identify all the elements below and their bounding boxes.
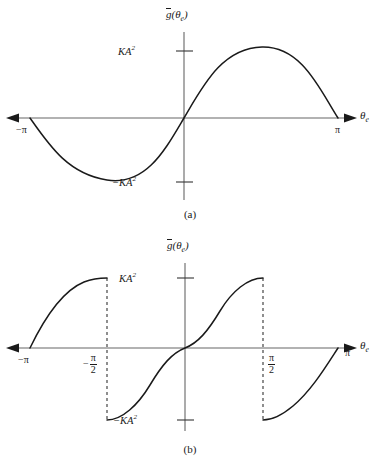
y-axis-label-open-a: (θ	[172, 8, 181, 20]
y-tick-label-negative-b: −KA2	[113, 414, 137, 426]
y-tick-label-positive-exp-b: 2	[132, 271, 136, 279]
g-bar-symbol-b: g	[167, 240, 173, 251]
panel-caption-a: (a)	[0, 208, 380, 220]
x-tick-label-pos-pi-a: π	[335, 125, 340, 135]
pos-half-pi-denominator-b: 2	[268, 365, 275, 376]
y-tick-label-negative-a: −KA2	[112, 176, 136, 188]
neg-half-pi-denominator-b: 2	[90, 365, 97, 376]
x-axis-label-b: θe	[360, 340, 369, 354]
neg-half-pi-fraction-b: π 2	[90, 353, 97, 375]
x-tick-label-neg-half-pi-b: − π 2	[83, 353, 97, 375]
y-axis-label-open-b: (θ	[173, 239, 182, 251]
x-axis-label-a: θe	[360, 110, 369, 124]
theta-subscript-b: e	[365, 345, 368, 354]
figure-root: g(θe) θe KA2 −KA2 −π π (a)	[0, 0, 380, 473]
plot-panel-a: g(θe) θe KA2 −KA2 −π π (a)	[0, 0, 380, 235]
pos-half-pi-fraction-b: π 2	[268, 353, 275, 375]
y-tick-label-negative-text-a: −KA	[112, 177, 133, 188]
curve-branch-left-b	[30, 278, 107, 348]
y-axis-label-close-a: )	[184, 8, 188, 20]
neg-half-pi-numerator-b: π	[90, 353, 97, 365]
y-tick-label-positive-exp-a: 2	[131, 44, 135, 52]
panel-caption-b: (b)	[0, 443, 380, 455]
x-axis-left-arrow-a	[6, 114, 19, 123]
y-tick-label-positive-text-a: KA	[118, 46, 131, 57]
theta-subscript-a: e	[365, 115, 368, 124]
y-axis-label-a: g(θe)	[166, 9, 188, 23]
x-tick-label-neg-pi-a: −π	[16, 125, 27, 135]
y-tick-label-negative-exp-b: 2	[134, 413, 138, 421]
g-bar-symbol-a: g	[166, 9, 172, 20]
plot-panel-b: g(θe) θe KA2 −KA2 −π − π 2	[0, 235, 380, 473]
y-tick-label-positive-b: KA2	[119, 272, 136, 284]
x-tick-label-pos-pi-b: π	[345, 348, 350, 358]
neg-half-pi-minus-b: −	[83, 359, 89, 369]
y-tick-label-negative-exp-a: 2	[133, 175, 137, 183]
y-tick-label-positive-text-b: KA	[119, 273, 132, 284]
x-tick-label-pos-half-pi-b: π 2	[268, 353, 275, 375]
pos-half-pi-numerator-b: π	[268, 353, 275, 365]
plot-b-graphics	[0, 235, 380, 473]
x-tick-label-neg-pi-b: −π	[18, 355, 29, 365]
y-axis-label-b: g(θe)	[167, 240, 189, 254]
y-axis-label-close-b: )	[185, 239, 189, 251]
y-tick-label-negative-text-b: −KA	[113, 415, 134, 426]
y-tick-label-positive-a: KA2	[118, 45, 135, 57]
plot-a-graphics	[0, 0, 380, 235]
x-axis-left-arrow-b	[6, 344, 19, 353]
x-axis-right-arrow-a	[344, 114, 357, 123]
